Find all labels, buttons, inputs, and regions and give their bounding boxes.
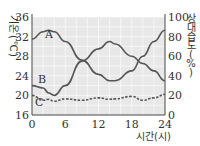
x-axis-title: 시간(시) [136,131,171,142]
svg-text:℃: ℃ [8,40,19,51]
svg-text:온: 온 [8,24,19,33]
svg-text:20: 20 [15,89,29,102]
svg-text:16: 16 [15,109,29,122]
svg-text:20: 20 [168,89,182,102]
label-C: C [35,96,43,109]
right-axis-title: 상대습도(%) [186,13,196,78]
left-axis-title: 기온(℃) [8,15,19,58]
svg-text:(: ( [8,35,19,39]
label-B: B [38,73,46,86]
svg-text:60: 60 [168,50,182,63]
svg-text:80: 80 [168,31,182,44]
svg-text:18: 18 [125,118,139,131]
svg-text:0: 0 [29,118,36,131]
svg-text:6: 6 [62,118,69,131]
svg-text:12: 12 [92,118,106,131]
svg-text:40: 40 [168,70,182,83]
chart: 06121824162024283236020406080100 A B C 기… [0,0,200,146]
label-A: A [44,28,54,41]
svg-text:0: 0 [168,109,175,122]
svg-text:기: 기 [8,15,19,24]
svg-text:24: 24 [15,70,29,83]
svg-text:): ) [8,53,19,57]
svg-text:): ) [189,67,193,78]
